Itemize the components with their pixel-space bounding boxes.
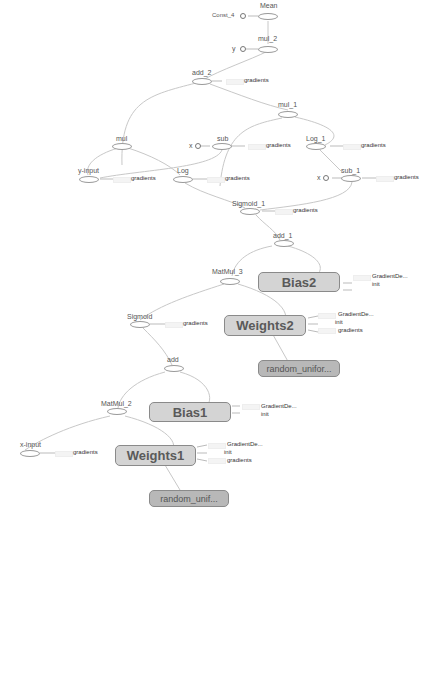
aux-label-weights1-gradients[interactable]: gradients bbox=[227, 457, 252, 463]
node-random-uniform-1[interactable]: random_unif... bbox=[149, 490, 229, 507]
node-add[interactable] bbox=[164, 365, 184, 372]
node-matmul2[interactable] bbox=[107, 408, 127, 415]
node-sigmoid1[interactable] bbox=[240, 208, 260, 215]
node-label-mul1: mul_1 bbox=[278, 101, 297, 108]
node-yinput[interactable] bbox=[79, 176, 99, 183]
aux-label-sub-gradients[interactable]: gradients bbox=[266, 142, 291, 148]
aux-box-bias1-gd bbox=[242, 404, 260, 410]
aux-box-log1 bbox=[343, 144, 361, 150]
aux-box-sigmoid1 bbox=[275, 209, 293, 215]
node-label-sigmoid1: Sigmoid_1 bbox=[232, 200, 265, 207]
aux-label-xinput-gradients[interactable]: gradients bbox=[73, 449, 98, 455]
node-label-add1: add_1 bbox=[273, 232, 292, 239]
aux-label-log-gradients[interactable]: gradients bbox=[225, 175, 250, 181]
aux-box-sub bbox=[248, 144, 266, 150]
aux-label-sigmoid-gradients[interactable]: gradients bbox=[183, 320, 208, 326]
node-label-sub1: sub_1 bbox=[341, 167, 360, 174]
node-label-matmul3: MatMul_3 bbox=[212, 268, 243, 275]
aux-label-weights2-init[interactable]: init bbox=[335, 319, 343, 325]
node-weights2[interactable]: Weights2 bbox=[224, 315, 306, 336]
node-sub[interactable] bbox=[212, 143, 232, 150]
node-label-mean: Mean bbox=[260, 2, 278, 9]
aux-label-bias1-init[interactable]: init bbox=[261, 411, 269, 417]
aux-box-xinput bbox=[55, 451, 73, 457]
node-mul2[interactable] bbox=[258, 46, 278, 53]
node-bias2[interactable]: Bias2 bbox=[258, 272, 340, 292]
node-add2[interactable] bbox=[192, 78, 212, 85]
aux-box-weights2-gd bbox=[318, 313, 336, 319]
aux-label-bias2-gradientdescent[interactable]: GradientDe... bbox=[372, 273, 408, 279]
aux-label-bias1-gradientdescent[interactable]: GradientDe... bbox=[261, 403, 297, 409]
aux-label-sub1-gradients[interactable]: gradients bbox=[394, 174, 419, 180]
node-label-sigmoid: Sigmoid bbox=[127, 313, 152, 320]
aux-label-weights1-init[interactable]: init bbox=[224, 449, 232, 455]
node-log1[interactable] bbox=[306, 143, 326, 150]
node-label-mul: mul bbox=[116, 135, 127, 142]
node-xinput[interactable] bbox=[20, 450, 40, 457]
aux-label-bias2-init[interactable]: init bbox=[372, 281, 380, 287]
aux-label-sigmoid1-gradients[interactable]: gradients bbox=[293, 207, 318, 213]
node-random-uniform-2[interactable]: random_unifor... bbox=[258, 360, 340, 377]
node-label-log: Log bbox=[177, 167, 189, 174]
node-log[interactable] bbox=[173, 176, 193, 183]
node-label-add2: add_2 bbox=[192, 69, 211, 76]
node-matmul3[interactable] bbox=[220, 278, 240, 285]
aux-box-sigmoid bbox=[165, 322, 183, 328]
node-label-matmul2: MatMul_2 bbox=[101, 400, 132, 407]
node-label-const4: Const_4 bbox=[212, 12, 234, 18]
node-mean[interactable] bbox=[258, 13, 278, 20]
node-mul1[interactable] bbox=[278, 111, 298, 118]
node-y[interactable] bbox=[240, 46, 246, 52]
node-label-yinput: y-input bbox=[78, 167, 99, 174]
aux-label-yinput-gradients[interactable]: gradients bbox=[131, 175, 156, 181]
node-label-x-sub: x bbox=[189, 142, 193, 149]
aux-label-weights1-gradientdescent[interactable]: GradientDe... bbox=[227, 441, 263, 447]
aux-box-weights2-gradients bbox=[318, 328, 336, 334]
node-label-add: add bbox=[167, 356, 179, 363]
node-mul[interactable] bbox=[112, 143, 132, 150]
aux-box-log bbox=[207, 177, 225, 183]
aux-box-sub1 bbox=[376, 176, 394, 182]
node-bias1[interactable]: Bias1 bbox=[149, 402, 231, 422]
node-label-log1: Log_1 bbox=[306, 135, 325, 142]
node-add1[interactable] bbox=[274, 240, 294, 247]
graph-edges bbox=[0, 0, 433, 691]
node-sub1[interactable] bbox=[341, 175, 361, 182]
node-label-mul2: mul_2 bbox=[258, 35, 277, 42]
node-x-sub[interactable] bbox=[195, 143, 201, 149]
node-x-sub1[interactable] bbox=[323, 175, 329, 181]
aux-label-weights2-gradientdescent[interactable]: GradientDe... bbox=[338, 311, 374, 317]
aux-box-weights1-gradients bbox=[208, 458, 226, 464]
aux-box-add2 bbox=[226, 79, 244, 85]
aux-label-log1-gradients[interactable]: gradients bbox=[361, 142, 386, 148]
aux-box-bias2-gd bbox=[353, 275, 371, 281]
aux-label-add2-gradients[interactable]: gradients bbox=[244, 77, 269, 83]
node-label-x-sub1: x bbox=[317, 174, 321, 181]
node-label-sub: sub bbox=[217, 135, 228, 142]
node-const4[interactable] bbox=[240, 13, 246, 19]
node-label-y: y bbox=[232, 45, 236, 52]
aux-box-yinput bbox=[113, 177, 131, 183]
node-weights1[interactable]: Weights1 bbox=[115, 445, 196, 466]
aux-label-weights2-gradients[interactable]: gradients bbox=[338, 327, 363, 333]
node-label-xinput: x-input bbox=[20, 441, 41, 448]
node-sigmoid[interactable] bbox=[130, 321, 150, 328]
